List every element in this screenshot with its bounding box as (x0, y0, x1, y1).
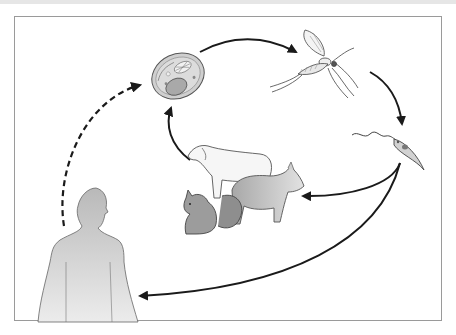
arrow-cell-to-fly (200, 39, 296, 52)
parasite-promastigote-icon (352, 132, 424, 170)
arrow-animals-to-cell (169, 108, 190, 160)
arrow-fly-to-parasite (370, 72, 402, 124)
human-icon (38, 188, 138, 322)
life-cycle-diagram (0, 0, 456, 335)
host-cell-icon (144, 45, 212, 108)
sandfly-icon (270, 30, 358, 98)
arrow-parasite-to-animals (303, 163, 400, 196)
squirrel-icon (184, 190, 242, 234)
